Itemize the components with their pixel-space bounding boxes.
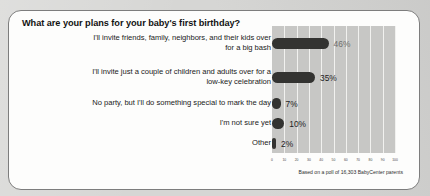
bar [272, 118, 284, 129]
bar [272, 98, 281, 109]
bar-value-label: 46% [334, 39, 351, 49]
bar-label-line: I'll invite friends, family, neighbors, … [26, 33, 271, 43]
bar-label-line: for a big bash [26, 43, 271, 53]
x-axis-tick-label: 10 [282, 158, 286, 162]
source-note: Based on a poll of 16,303 BabyCenter par… [299, 169, 404, 175]
bar [272, 138, 276, 149]
x-axis-tick-label: 100 [392, 158, 398, 162]
bar-label-line: I'll invite just a couple of children an… [26, 67, 271, 77]
bar-label: I'm not sure yet [26, 116, 271, 130]
bar-label-line: low-key celebration [26, 77, 271, 87]
bar-label-line: I'm not sure yet [26, 118, 271, 128]
bar [272, 38, 329, 49]
bar-rows: I'll invite friends, family, neighbors, … [9, 26, 420, 153]
x-axis-tick-label: 70 [356, 158, 360, 162]
x-axis-tick-label: 80 [369, 158, 373, 162]
bar-value-label: 10% [289, 119, 306, 129]
bar-label: I'll invite friends, family, neighbors, … [26, 30, 271, 56]
x-axis-tick-label: 0 [271, 158, 273, 162]
bar-value-label: 35% [320, 73, 337, 83]
x-axis-tick-label: 50 [332, 158, 336, 162]
bar-label: Other [26, 136, 271, 150]
x-axis-tick-label: 40 [319, 158, 323, 162]
bar-label: I'll invite just a couple of children an… [26, 64, 271, 90]
x-axis: 0102030405060708090100 [272, 158, 395, 167]
x-axis-tick-label: 90 [381, 158, 385, 162]
bar-label-line: No party, but I'll do something special … [26, 98, 271, 108]
bar-label-line: Other [26, 138, 271, 148]
x-axis-tick-label: 20 [295, 158, 299, 162]
chart-card: What are your plans for your baby's firs… [8, 10, 420, 190]
x-axis-tick-label: 30 [307, 158, 311, 162]
bar-value-label: 7% [286, 99, 298, 109]
x-axis-tick-label: 60 [344, 158, 348, 162]
poll-chart-figure: What are your plans for your baby's firs… [0, 0, 430, 196]
bar [272, 72, 315, 83]
bar-value-label: 2% [281, 139, 293, 149]
bar-label: No party, but I'll do something special … [26, 96, 271, 110]
